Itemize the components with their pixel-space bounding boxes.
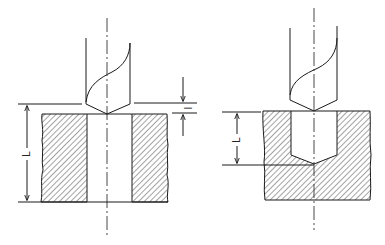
left-label-L: L bbox=[21, 151, 32, 157]
left-workpiece-right-half bbox=[132, 114, 168, 202]
left-figure-through-hole bbox=[18, 18, 197, 235]
right-figure-blind-hole bbox=[222, 8, 371, 230]
left-workpiece-left-half bbox=[41, 114, 87, 202]
right-drill-bit bbox=[290, 26, 337, 111]
right-workpiece bbox=[263, 111, 371, 200]
left-drill-bit bbox=[86, 38, 130, 114]
left-label-l: l bbox=[183, 107, 194, 109]
drilling-diagram: L l L bbox=[0, 0, 385, 245]
right-label-L: L bbox=[231, 137, 242, 143]
